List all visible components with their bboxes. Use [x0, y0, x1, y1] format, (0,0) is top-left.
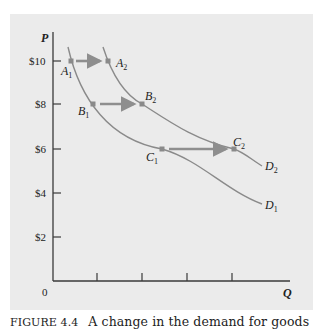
label-d2: D2 — [264, 159, 278, 175]
demand-shift-chart: $10 $8 $6 $4 $2 0 P Q D2 D1 A1 A2 B1 B2 … — [0, 0, 326, 329]
y-axis-label: P — [41, 31, 49, 45]
label-c1: C1 — [146, 150, 158, 166]
y-ticks — [53, 61, 61, 237]
y-tick-label-4: $4 — [35, 187, 47, 199]
y-tick-label-10: $10 — [29, 55, 46, 67]
label-b1: B1 — [78, 104, 89, 120]
point-a1 — [69, 59, 74, 64]
origin-label: 0 — [42, 286, 48, 298]
label-a2: A2 — [115, 56, 127, 72]
caption-text: A change in the demand for goods — [88, 314, 309, 329]
x-ticks — [97, 273, 232, 281]
y-tick-label-8: $8 — [35, 98, 47, 110]
label-a1: A1 — [60, 64, 72, 80]
point-b1 — [91, 102, 96, 107]
point-b2 — [140, 102, 145, 107]
y-tick-label-2: $2 — [35, 231, 46, 243]
label-b2: B2 — [145, 89, 156, 105]
data-points — [69, 59, 237, 152]
demand-curve-d1 — [68, 47, 262, 204]
y-tick-label-6: $6 — [35, 143, 47, 155]
label-c2: C2 — [233, 135, 245, 151]
label-d1: D1 — [264, 198, 278, 214]
figure-number: FIGURE 4.4 — [10, 316, 78, 329]
x-axis-label: Q — [283, 286, 292, 300]
figure-caption: FIGURE 4.4A change in the demand for goo… — [10, 314, 309, 329]
point-c1 — [160, 147, 165, 152]
point-a2 — [106, 59, 111, 64]
